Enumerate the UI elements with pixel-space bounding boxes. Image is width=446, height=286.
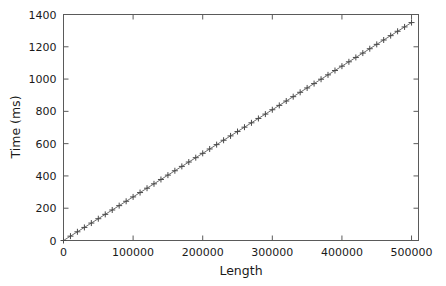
data-point-marker	[346, 59, 352, 65]
data-point-marker	[311, 81, 317, 87]
y-axis-tick-labels: 0200400600800100012001400	[29, 9, 57, 248]
data-point-marker	[325, 72, 331, 78]
data-point-marker	[158, 176, 164, 182]
chart-figure: 0200400600800100012001400 01000002000003…	[0, 0, 446, 286]
x-tick-label: 300000	[251, 246, 293, 259]
data-point-marker	[130, 194, 136, 200]
y-tick-label: 1000	[29, 73, 57, 86]
data-point-marker	[186, 159, 192, 165]
data-point-marker	[235, 129, 241, 135]
data-point-marker	[214, 142, 220, 148]
data-point-marker	[109, 207, 115, 213]
data-point-marker	[144, 185, 150, 191]
data-point-marker	[339, 63, 345, 69]
data-point-marker	[304, 85, 310, 91]
data-point-marker	[402, 24, 408, 30]
data-point-marker	[332, 68, 338, 74]
data-point-marker	[248, 120, 254, 126]
data-point-marker	[241, 124, 247, 130]
data-point-marker	[74, 229, 80, 235]
data-point-marker	[172, 168, 178, 174]
data-point-marker	[283, 98, 289, 104]
data-point-marker	[151, 181, 157, 187]
data-point-marker	[61, 238, 67, 244]
data-point-marker	[262, 111, 268, 117]
y-tick-label: 0	[50, 235, 57, 248]
data-point-marker	[318, 76, 324, 82]
data-point-marker	[228, 133, 234, 139]
x-axis-title: Length	[219, 263, 262, 278]
y-tick-label: 1400	[29, 9, 57, 22]
data-point-marker	[367, 46, 373, 52]
x-tick-label: 100000	[112, 246, 154, 259]
data-point-marker	[276, 102, 282, 108]
x-tick-label: 0	[60, 246, 67, 259]
data-point-marker	[374, 41, 380, 47]
data-point-marker	[353, 54, 359, 60]
line-chart: 0200400600800100012001400 01000002000003…	[0, 0, 446, 286]
data-point-marker	[255, 115, 261, 121]
y-tick-label: 800	[36, 105, 57, 118]
data-point-marker	[269, 107, 275, 113]
x-tick-label: 400000	[321, 246, 363, 259]
x-tick-label: 200000	[182, 246, 224, 259]
data-point-marker	[81, 224, 87, 230]
data-point-marker	[360, 50, 366, 56]
data-point-marker	[137, 190, 143, 196]
data-point-marker	[95, 216, 101, 222]
data-point-marker	[165, 172, 171, 178]
data-point-marker	[193, 155, 199, 161]
data-series-markers	[61, 20, 415, 244]
y-tick-label: 1200	[29, 41, 57, 54]
data-point-marker	[67, 233, 73, 239]
data-point-marker	[395, 28, 401, 34]
data-point-marker	[381, 37, 387, 43]
data-point-marker	[200, 150, 206, 156]
data-point-marker	[297, 89, 303, 95]
data-point-marker	[221, 137, 227, 143]
data-point-marker	[207, 146, 213, 152]
x-axis-tick-labels: 0100000200000300000400000500000	[60, 246, 433, 259]
y-axis-title: Time (ms)	[8, 95, 23, 159]
data-point-marker	[179, 163, 185, 169]
data-point-marker	[388, 33, 394, 39]
data-point-marker	[88, 220, 94, 226]
y-tick-label: 600	[36, 138, 57, 151]
x-tick-label: 500000	[391, 246, 433, 259]
y-tick-label: 200	[36, 202, 57, 215]
data-point-marker	[409, 20, 415, 26]
data-point-marker	[123, 198, 129, 204]
data-point-marker	[116, 203, 122, 209]
data-point-marker	[290, 94, 296, 100]
y-tick-label: 400	[36, 170, 57, 183]
data-point-marker	[102, 211, 108, 217]
